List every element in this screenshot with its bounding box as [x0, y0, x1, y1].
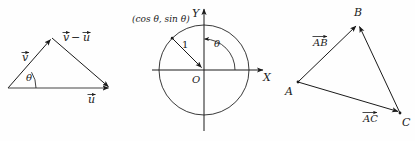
label-radius-one: 1: [182, 39, 188, 50]
segment-ab-line: [298, 26, 356, 82]
label-vector-ab-text: AB: [312, 37, 328, 48]
label-vector-v: v: [22, 51, 30, 64]
label-vector-ac: AC: [362, 113, 378, 125]
label-vertex-a: A: [284, 85, 293, 98]
figure-unit-circle: (cos θ, sin θ) 1 θ O X Y: [130, 0, 275, 141]
label-origin-o: O: [192, 74, 200, 85]
label-x-axis: X: [262, 71, 272, 84]
label-vertex-c: C: [402, 116, 411, 129]
figure-board: v v − u u θ: [0, 0, 415, 141]
label-vector-ab: AB: [312, 37, 328, 49]
vertex-c-marker: [399, 112, 402, 115]
vector-v-minus-u-line: [52, 38, 109, 87]
label-vector-v-minus-u-u: u: [83, 31, 90, 44]
label-vector-ac-text: AC: [362, 113, 378, 124]
segment-bc-line: [360, 27, 401, 114]
label-point-cos-sin: (cos θ, sin θ): [132, 14, 190, 24]
label-angle-theta: θ: [26, 72, 32, 83]
label-vector-v-text: v: [22, 51, 29, 64]
label-vector-v-minus-u: v − u: [63, 31, 91, 44]
label-vertex-b: B: [353, 6, 362, 19]
segment-ac-line: [298, 82, 398, 112]
label-vector-u-text: u: [88, 93, 95, 106]
label-vector-v-minus-u-v: v: [63, 31, 70, 44]
label-vector-v-minus-u-sign: −: [71, 31, 80, 44]
vertex-a-marker: [297, 81, 300, 84]
point-on-circle-marker: [171, 37, 174, 40]
angle-theta-arc: [32, 72, 37, 88]
figure-abc-triangle: A B C AB AC: [275, 0, 415, 141]
label-y-axis: Y: [192, 7, 201, 20]
label-angle-theta: θ: [214, 38, 220, 49]
figure-vector-triangle: v v − u u θ: [0, 0, 130, 141]
label-vector-u: u: [88, 93, 96, 106]
